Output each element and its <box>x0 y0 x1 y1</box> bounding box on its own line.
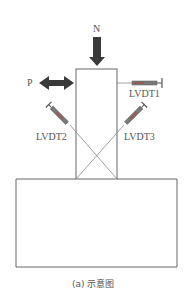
axial-load-arrow-icon <box>89 37 105 66</box>
lvdt1-label: LVDT1 <box>129 89 160 99</box>
schematic-drawing <box>0 0 192 294</box>
axial-load-label: N <box>93 24 100 34</box>
lvdt3-label: LVDT3 <box>124 132 155 142</box>
lvdt1-sensor-icon <box>117 78 162 88</box>
lateral-load-label: P <box>27 78 33 88</box>
specimen-schematic: N P LVDT1 LVDT2 LVDT3 (a) 示意图 <box>0 0 192 294</box>
lvdt3-sensor-icon <box>123 102 147 126</box>
lvdt2-sensor-icon <box>46 102 70 126</box>
column <box>76 69 117 179</box>
foundation-block <box>16 179 177 267</box>
lvdt2-wire <box>70 125 117 179</box>
lateral-load-double-arrow-icon <box>39 76 74 90</box>
lvdt2-label: LVDT2 <box>36 132 67 142</box>
figure-caption: (a) 示意图 <box>72 279 114 289</box>
